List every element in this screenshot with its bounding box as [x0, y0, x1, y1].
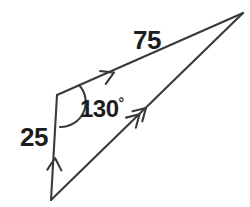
side-length-label-75: 75	[133, 27, 161, 53]
single-arrow-marker-25	[47, 158, 62, 171]
angle-value-text: 130	[80, 95, 119, 122]
degree-symbol: °	[119, 95, 124, 111]
side-25-line	[51, 95, 57, 200]
angle-measure-label: 130°	[80, 97, 124, 121]
triangle-figure	[0, 0, 250, 207]
side-length-label-25: 25	[20, 124, 48, 150]
geometry-diagram: 75 25 130°	[0, 0, 250, 207]
